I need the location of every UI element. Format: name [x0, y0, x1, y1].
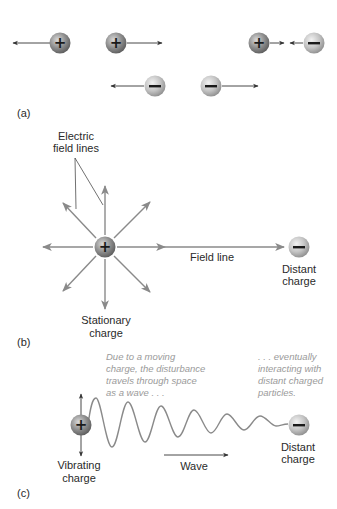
leader-line — [75, 158, 76, 209]
positive-charge: + — [249, 33, 270, 54]
panel-b-label: (b) — [17, 336, 30, 348]
stationary-charge-label: Stationary — [81, 314, 131, 326]
em-wave — [88, 398, 288, 447]
svg-text:+: + — [110, 34, 123, 52]
wave-label: Wave — [180, 460, 208, 472]
distant-charge-label: Distant — [282, 263, 316, 275]
negative-charge — [145, 76, 166, 97]
stationary-positive-charge: + — [95, 237, 116, 258]
field-lines — [43, 186, 284, 309]
distant-charge-label: charge — [281, 453, 315, 465]
svg-text:+: + — [99, 238, 112, 256]
panel-a: + + + (a) — [13, 33, 325, 120]
panel-b: Electric field lines + Field line Distan… — [17, 130, 316, 348]
note-left-line: charge, the disturbance — [106, 363, 205, 374]
stationary-charge-label: charge — [89, 327, 123, 339]
positive-charge: + — [106, 33, 127, 54]
vibrating-charge-label: Vibrating — [57, 459, 100, 471]
note-right-line: . . . eventually — [258, 351, 318, 362]
field-line-label: Field line — [190, 251, 234, 263]
vibrating-positive-charge: + — [71, 415, 92, 436]
vibrating-charge-label: charge — [62, 472, 96, 484]
note-left-line: as a wave . . . — [106, 387, 165, 398]
negative-charge — [304, 33, 325, 54]
panel-c: Due to a moving charge, the disturbance … — [17, 351, 324, 499]
distant-charge-label: Distant — [281, 441, 315, 453]
field-lines-label: field lines — [53, 142, 99, 154]
field-lines-label: Electric — [58, 130, 95, 142]
note-left-line: travels through space — [106, 375, 197, 386]
svg-text:+: + — [253, 34, 266, 52]
panel-a-label: (a) — [17, 107, 30, 119]
svg-text:+: + — [75, 416, 88, 434]
note-right-line: particles. — [257, 387, 296, 398]
note-right-line: interacting with — [258, 363, 321, 374]
leader-line — [75, 158, 103, 205]
note-right-line: distant charged — [258, 375, 324, 386]
panel-c-label: (c) — [17, 487, 30, 499]
note-left-line: Due to a moving — [106, 351, 176, 362]
em-wave-figure: + + + (a) Electric fie — [0, 0, 337, 509]
svg-text:+: + — [54, 34, 67, 52]
distant-negative-charge — [289, 237, 310, 258]
distant-charge-label: charge — [282, 275, 316, 287]
negative-charge — [201, 76, 222, 97]
distant-negative-charge — [289, 415, 310, 436]
positive-charge: + — [50, 33, 71, 54]
